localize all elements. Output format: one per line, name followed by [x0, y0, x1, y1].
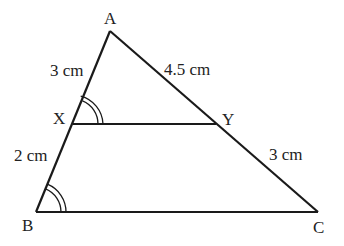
angle-mark-B: [46, 184, 67, 212]
length-label-YC: 3 cm: [269, 145, 303, 164]
triangle-diagram: A X Y B C 3 cm 4.5 cm 2 cm 3 cm: [0, 0, 344, 246]
length-label-XB: 2 cm: [14, 146, 48, 165]
diagram-svg: A X Y B C 3 cm 4.5 cm 2 cm 3 cm: [0, 0, 344, 246]
side-AB: [36, 31, 110, 212]
length-label-AY: 4.5 cm: [164, 60, 210, 79]
vertex-label-X: X: [53, 109, 65, 128]
vertex-label-C: C: [313, 218, 324, 237]
vertex-label-B: B: [22, 216, 33, 235]
side-AC: [110, 31, 318, 212]
length-label-AX: 3 cm: [50, 61, 84, 80]
vertex-label-Y: Y: [222, 110, 234, 129]
angle-mark-X: [81, 96, 103, 124]
vertex-label-A: A: [104, 9, 117, 28]
